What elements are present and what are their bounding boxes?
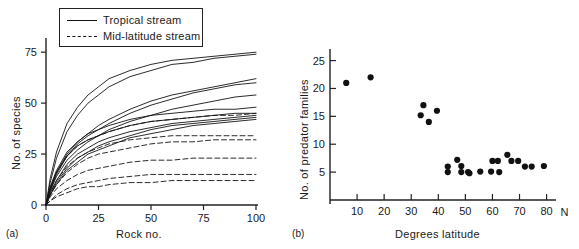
legend-item-midlatitude: Mid-latitude stream — [67, 28, 200, 44]
panel-a-x-tick-label: 100 — [247, 212, 265, 224]
panel-b-data-point — [445, 163, 451, 169]
panel-a-curve-13 — [46, 158, 256, 205]
panel-b-data-point — [529, 163, 535, 169]
panel-a-x-tick-label: 25 — [92, 212, 104, 224]
panel-b-data-point — [458, 163, 464, 169]
panel-b-label: (b) — [292, 228, 305, 239]
panel-b-data-point — [343, 80, 349, 86]
panel-b-data-point — [488, 168, 494, 174]
panel-b-data-point — [515, 158, 521, 164]
panel-b-x-tick-label: 30 — [405, 205, 417, 217]
panel-b-data-point — [522, 163, 528, 169]
panel-a-x-tick-label: 75 — [197, 212, 209, 224]
panel-b-data-point — [434, 108, 440, 114]
panel-b-data-point — [458, 169, 464, 175]
panel-a-curve-9 — [46, 119, 256, 205]
panel-a-curve-15 — [46, 181, 256, 205]
panel-b-predator-latitude: 1020304050607080510152025 Degrees latitu… — [290, 0, 579, 249]
panel-b-data-point — [466, 170, 472, 176]
panel-b-data-point — [477, 168, 483, 174]
panel-b-y-tick-label: 10 — [313, 138, 325, 150]
panel-b-data-point — [508, 158, 514, 164]
panel-a-x-tick-label: 0 — [43, 212, 49, 224]
panel-b-data-point — [541, 163, 547, 169]
panel-b-y-tick-label: 15 — [313, 110, 325, 122]
legend-label-tropical: Tropical stream — [103, 14, 181, 26]
panel-b-data-point — [454, 157, 460, 163]
panel-a-label: (a) — [6, 228, 19, 239]
panel-a-y-tick-label: 0 — [31, 199, 37, 211]
legend-line-solid-icon — [67, 20, 97, 21]
panel-b-x-tick-label: 10 — [351, 205, 363, 217]
panel-b-y-tick-label: 5 — [319, 166, 325, 178]
legend-line-dashed-icon — [67, 36, 97, 37]
panel-a-x-tick-label: 50 — [145, 212, 157, 224]
legend-label-midlatitude: Mid-latitude stream — [103, 30, 200, 42]
panel-b-x-tick-label: 50 — [459, 205, 471, 217]
figure-container: 02550751000255075 Tropical stream Mid-la… — [0, 0, 579, 249]
panel-b-y-tick-label: 25 — [313, 55, 325, 67]
panel-b-y-tick-label: 20 — [313, 82, 325, 94]
panel-b-x-tick-label: 70 — [513, 205, 525, 217]
panel-a-y-tick-label: 25 — [25, 148, 37, 160]
panel-a-y-tick-label: 50 — [25, 97, 37, 109]
panel-b-data-point — [418, 112, 424, 118]
panel-a-curve-14 — [46, 174, 256, 205]
panel-b-data-point — [368, 74, 374, 80]
panel-a-curve-8 — [46, 117, 256, 205]
panel-b-data-point — [495, 158, 501, 164]
panel-a-curve-0 — [46, 52, 256, 205]
panel-b-x-axis-title: Degrees latitude — [395, 228, 480, 240]
panel-a-species-accumulation: 02550751000255075 Tropical stream Mid-la… — [0, 0, 290, 249]
panel-b-x-tick-label: 20 — [378, 205, 390, 217]
panel-a-x-axis-title: Rock no. — [116, 228, 162, 240]
panel-a-curve-10 — [46, 113, 256, 205]
legend: Tropical stream Mid-latitude stream — [59, 8, 203, 47]
panel-b-data-point — [504, 152, 510, 158]
panel-b-north-label: N — [561, 206, 569, 218]
panel-b-data-point — [426, 119, 432, 125]
panel-b-data-point — [445, 169, 451, 175]
panel-a-y-axis-title: No. of species — [10, 96, 22, 170]
panel-b-y-axis-title: No. of predator families — [298, 79, 310, 200]
panel-a-y-tick-label: 75 — [25, 46, 37, 58]
panel-a-curve-6 — [46, 113, 256, 205]
panel-b-data-point — [496, 169, 502, 175]
panel-b-plot: 1020304050607080510152025 — [290, 0, 579, 249]
panel-b-x-tick-label: 40 — [432, 205, 444, 217]
panel-b-x-tick-label: 80 — [540, 205, 552, 217]
panel-b-x-tick-label: 60 — [486, 205, 498, 217]
panel-b-data-point — [489, 158, 495, 164]
panel-b-data-point — [420, 102, 426, 108]
legend-item-tropical: Tropical stream — [67, 12, 181, 28]
